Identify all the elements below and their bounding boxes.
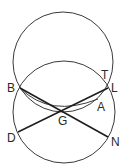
label-d: D	[7, 131, 16, 145]
label-b: B	[7, 81, 15, 95]
label-n: N	[111, 135, 120, 149]
label-a: A	[97, 100, 105, 114]
label-g: G	[58, 114, 67, 128]
chord-bn	[20, 88, 108, 137]
upper-circle	[13, 12, 113, 112]
label-t: T	[101, 68, 109, 82]
label-l: L	[111, 81, 118, 95]
geometry-diagram: B T L A G D N	[0, 0, 124, 168]
arc-b-g-a	[20, 88, 98, 106]
